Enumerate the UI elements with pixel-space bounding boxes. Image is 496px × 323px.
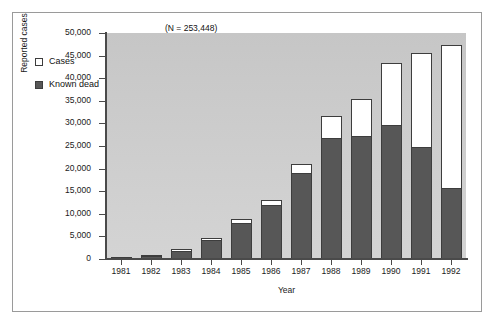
- bar-segment-known-dead[interactable]: [321, 138, 342, 259]
- x-axis-tick: [271, 260, 272, 265]
- x-axis-tick: [211, 260, 212, 265]
- bar-group[interactable]: [351, 99, 372, 259]
- bar-segment-known-dead[interactable]: [261, 205, 282, 259]
- x-axis-tick: [421, 260, 422, 265]
- x-axis-tick: [301, 260, 302, 265]
- y-axis-tick: [99, 78, 105, 79]
- bar-segment-known-dead[interactable]: [351, 136, 372, 259]
- bar-segment-known-dead[interactable]: [441, 188, 462, 259]
- y-axis-tick-label: 15,000: [35, 186, 91, 195]
- y-axis-tick: [99, 33, 105, 34]
- bar-group[interactable]: [231, 219, 252, 259]
- x-axis-line: [105, 258, 468, 260]
- bar-group[interactable]: [411, 53, 432, 259]
- bar-group[interactable]: [291, 164, 312, 259]
- legend-swatch-known-dead-icon: [35, 81, 43, 89]
- bar-group[interactable]: [321, 116, 342, 259]
- x-axis-tick: [241, 260, 242, 265]
- plot-area: [106, 33, 466, 259]
- y-axis-tick: [99, 259, 105, 260]
- bar-segment-known-dead[interactable]: [381, 125, 402, 259]
- y-axis-tick-label: 5,000: [35, 231, 91, 240]
- bar-group[interactable]: [201, 238, 222, 259]
- bar-segment-known-dead[interactable]: [411, 147, 432, 259]
- x-axis-title: Year: [105, 285, 468, 295]
- y-axis-tick-label: 45,000: [35, 51, 91, 60]
- y-axis-tick-label: 35,000: [35, 96, 91, 105]
- bar-group[interactable]: [261, 200, 282, 259]
- bar-segment-known-dead[interactable]: [291, 173, 312, 259]
- y-axis-tick-label: 10,000: [35, 209, 91, 218]
- y-axis-tick-label: 25,000: [35, 141, 91, 150]
- y-axis-tick: [99, 123, 105, 124]
- y-axis-title: Reported cases: [19, 0, 29, 93]
- y-axis-tick: [99, 169, 105, 170]
- x-axis-tick-label: 1992: [431, 267, 471, 276]
- chart-figure: (N = 253,448) Cases Known dead 05,00010,…: [12, 12, 482, 312]
- y-axis-line: [105, 32, 107, 260]
- y-axis-tick: [99, 236, 105, 237]
- x-axis-tick: [451, 260, 452, 265]
- bar-segment-known-dead[interactable]: [201, 240, 222, 259]
- y-axis-tick-label: 0: [35, 254, 91, 263]
- y-axis-tick-label: 40,000: [35, 73, 91, 82]
- y-axis-tick-label: 50,000: [35, 28, 91, 37]
- x-axis-tick: [181, 260, 182, 265]
- x-axis-tick: [331, 260, 332, 265]
- bar-group[interactable]: [381, 63, 402, 259]
- x-axis-tick: [391, 260, 392, 265]
- y-axis-tick-label: 30,000: [35, 118, 91, 127]
- y-axis-tick: [99, 56, 105, 57]
- y-axis-tick: [99, 191, 105, 192]
- sample-size-annotation: (N = 253,448): [165, 23, 217, 33]
- y-axis-tick: [99, 214, 105, 215]
- y-axis-tick: [99, 146, 105, 147]
- y-axis-tick-label: 20,000: [35, 164, 91, 173]
- x-axis-tick: [121, 260, 122, 265]
- bar-segment-known-dead[interactable]: [231, 223, 252, 259]
- x-axis-tick: [361, 260, 362, 265]
- x-axis-tick: [151, 260, 152, 265]
- y-axis-tick: [99, 101, 105, 102]
- bar-group[interactable]: [441, 45, 462, 259]
